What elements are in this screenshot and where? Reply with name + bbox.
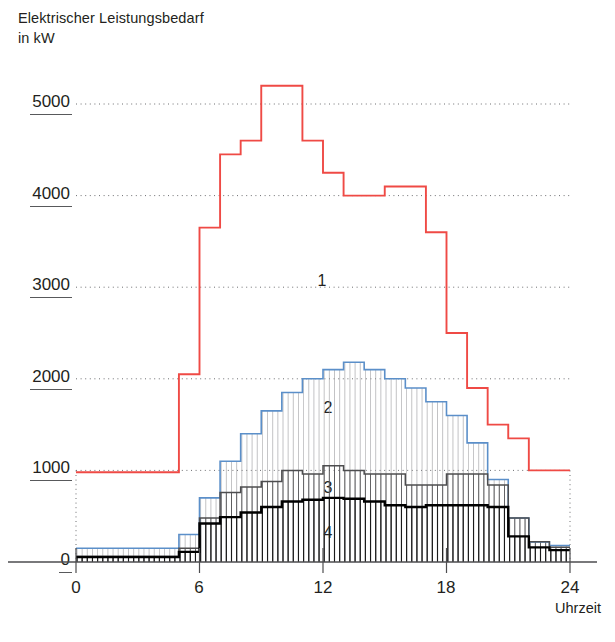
plot-svg — [0, 0, 615, 642]
series-2-step-line — [76, 362, 570, 548]
chart-root: Elektrischer Leistungsbedarfin kW 5000 4… — [0, 0, 615, 642]
axis-lines — [8, 548, 597, 573]
series-1-step-line — [76, 86, 570, 473]
